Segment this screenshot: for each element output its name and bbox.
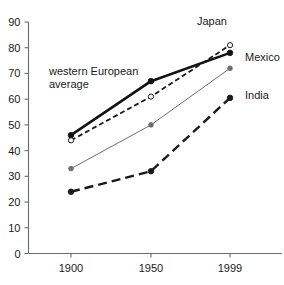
x-tick-label: 1950 [139, 262, 163, 274]
data-point [68, 138, 73, 143]
data-point [227, 95, 233, 101]
y-tick-label: 50 [8, 119, 20, 131]
series-label-japan-text: Japan [197, 15, 227, 27]
data-point [227, 43, 232, 48]
y-tick-label: 10 [8, 222, 20, 234]
data-point [227, 50, 233, 56]
data-point [68, 189, 74, 195]
series-label-mexico-text: Mexico [245, 51, 280, 63]
series-line-india [71, 98, 230, 192]
y-tick-label: 20 [8, 196, 20, 208]
data-point [148, 168, 154, 174]
series-label-mexico: Mexico [245, 51, 280, 63]
line-chart: 0102030405060708090 190019501999 Japan M… [0, 0, 284, 285]
annotation-line-2: average [49, 78, 89, 90]
data-point [228, 66, 233, 71]
series-label-india-text: India [245, 89, 270, 101]
y-tick-label: 40 [8, 145, 20, 157]
annotation-line-1: western European [48, 65, 138, 77]
x-tick-label: 1900 [59, 262, 83, 274]
data-point [148, 94, 153, 99]
data-point [149, 122, 154, 127]
data-point [148, 78, 154, 84]
y-axis: 0102030405060708090 [8, 16, 28, 260]
x-tick-label: 1999 [218, 262, 242, 274]
y-tick-label: 0 [14, 248, 20, 260]
annotation-western-european-average: western European average [48, 65, 138, 90]
series-label-japan: Japan [197, 15, 227, 27]
data-point [68, 132, 74, 138]
y-axis-ticks [25, 22, 29, 254]
y-tick-label: 70 [8, 67, 20, 79]
y-tick-label: 30 [8, 170, 20, 182]
y-tick-label: 60 [8, 93, 20, 105]
chart-canvas: 0102030405060708090 190019501999 Japan M… [0, 0, 284, 285]
y-tick-label: 80 [8, 42, 20, 54]
y-tick-label: 90 [8, 16, 20, 28]
y-axis-tick-labels: 0102030405060708090 [8, 16, 20, 260]
x-axis-tick-labels: 190019501999 [59, 262, 242, 274]
x-axis: 190019501999 [29, 254, 283, 274]
series-label-india: India [245, 89, 270, 101]
x-axis-ticks [71, 254, 230, 258]
data-point [69, 166, 74, 171]
